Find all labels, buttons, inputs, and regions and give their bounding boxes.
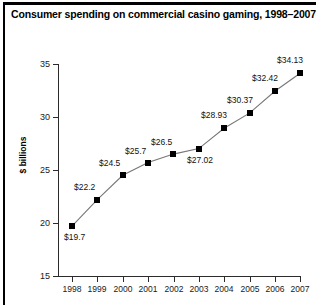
data-point-2006[interactable] — [272, 88, 278, 94]
data-label-2006: $32.42 — [252, 73, 278, 83]
chart-figure: Consumer spending on commercial casino g… — [0, 0, 319, 308]
data-label-2000: $24.5 — [99, 158, 120, 168]
data-label-1999: $22.2 — [74, 182, 95, 192]
series-line — [0, 0, 319, 308]
plot-area: $ billions 15 20 25 30 35 1998 1999 2000… — [0, 0, 319, 308]
data-point-1999[interactable] — [94, 197, 100, 203]
data-point-1998[interactable] — [69, 223, 75, 229]
data-label-2004: $28.93 — [201, 110, 227, 120]
data-label-2003: $27.02 — [187, 155, 213, 165]
data-label-2002: $26.5 — [151, 137, 172, 147]
data-point-2001[interactable] — [145, 160, 151, 166]
data-label-2005: $30.37 — [227, 95, 253, 105]
data-point-2000[interactable] — [120, 172, 126, 178]
data-point-2007[interactable] — [297, 70, 303, 76]
data-label-1998: $19.7 — [64, 232, 85, 242]
data-point-2003[interactable] — [196, 146, 202, 152]
data-point-2005[interactable] — [247, 110, 253, 116]
data-label-2001: $25.7 — [125, 146, 146, 156]
data-label-2007: $34.13 — [277, 55, 303, 65]
data-point-2004[interactable] — [221, 125, 227, 131]
data-point-2002[interactable] — [170, 151, 176, 157]
